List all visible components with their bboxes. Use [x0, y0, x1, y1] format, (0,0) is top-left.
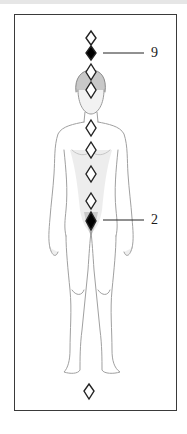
label-upper: 9: [151, 46, 158, 60]
diamond-marker-1: [86, 31, 96, 45]
label-lower: 2: [151, 213, 158, 227]
diamond-marker-5: [86, 120, 96, 136]
human-figure-diagram: [0, 0, 187, 434]
diamond-marker-2-filled: [86, 46, 96, 60]
diamond-marker-10: [84, 384, 94, 399]
